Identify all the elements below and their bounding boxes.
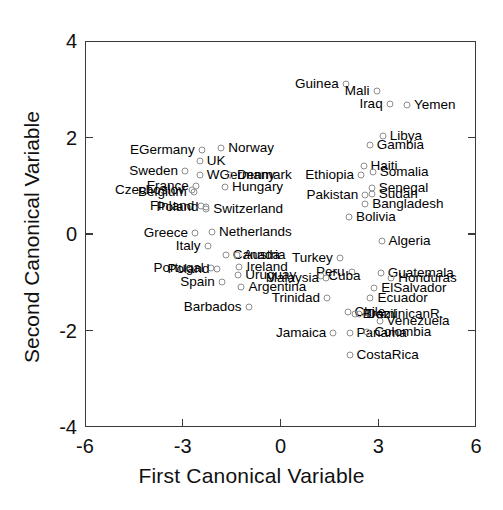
- point-label: Iraq: [359, 97, 382, 111]
- data-point: [356, 311, 363, 318]
- data-point: [386, 100, 393, 107]
- data-point: [203, 205, 210, 212]
- data-point: [336, 255, 343, 262]
- point-label: Sweden: [129, 165, 178, 179]
- x-tick-mark: [280, 419, 281, 427]
- point-label: Italy: [176, 239, 201, 253]
- y-tick-mark: [468, 330, 476, 331]
- y-tick-mark: [85, 233, 93, 234]
- data-point: [204, 242, 211, 249]
- y-tick-label: 2: [39, 128, 77, 148]
- data-point: [222, 183, 229, 190]
- y-axis-label: Second Canonical Variable: [20, 37, 44, 437]
- y-tick-label: -2: [39, 321, 77, 341]
- data-point: [364, 329, 371, 336]
- point-label: Switzerland: [213, 202, 283, 216]
- point-label: Yemen: [414, 98, 456, 112]
- data-point: [324, 295, 331, 302]
- data-point: [218, 145, 225, 152]
- data-point: [403, 101, 410, 108]
- point-label: Hungary: [232, 180, 283, 194]
- x-tick-mark: [182, 419, 183, 427]
- y-tick-label: 4: [39, 31, 77, 51]
- data-point: [360, 163, 367, 170]
- data-point: [346, 351, 353, 358]
- point-label: Cuba: [328, 270, 360, 284]
- point-label: Colombia: [374, 326, 431, 340]
- data-point: [362, 201, 369, 208]
- data-point: [362, 192, 369, 199]
- x-tick-mark: [378, 419, 379, 427]
- data-point: [245, 304, 252, 311]
- point-label: Bolivia: [356, 210, 396, 224]
- data-point: [198, 146, 205, 153]
- point-label: Ecuador: [377, 291, 427, 305]
- point-label: Somalia: [380, 165, 429, 179]
- x-tick-label: -3: [174, 436, 192, 456]
- data-point: [346, 330, 353, 337]
- data-point: [182, 168, 189, 175]
- data-point: [369, 169, 376, 176]
- point-label: Argentina: [248, 280, 306, 294]
- data-point: [192, 230, 199, 237]
- x-tick-label: 0: [275, 436, 286, 456]
- data-point: [373, 88, 380, 95]
- data-point: [236, 263, 243, 270]
- x-tick-label: -6: [76, 436, 94, 456]
- data-point: [378, 237, 385, 244]
- x-tick-label: 3: [373, 436, 384, 456]
- point-label: Netherlands: [219, 225, 292, 239]
- data-point: [196, 172, 203, 179]
- point-label: Guinea: [295, 78, 339, 92]
- data-point: [233, 252, 240, 259]
- data-point: [367, 294, 374, 301]
- data-point: [235, 272, 242, 279]
- data-point: [238, 284, 245, 291]
- point-label: Gambia: [377, 138, 424, 152]
- point-label: CostaRica: [357, 348, 419, 362]
- point-label: Pakistan: [306, 189, 358, 203]
- data-point: [376, 317, 383, 324]
- data-point: [357, 172, 364, 179]
- point-label: UK: [207, 154, 226, 168]
- point-label: Barbados: [184, 301, 242, 315]
- data-point: [226, 172, 233, 179]
- point-label: Ethiopia: [305, 168, 354, 182]
- point-label: EGermany: [130, 143, 195, 157]
- data-point: [209, 229, 216, 236]
- point-label: Poland: [157, 201, 199, 215]
- data-point: [213, 265, 220, 272]
- y-tick-label: -4: [39, 417, 77, 437]
- point-label: Turkey: [292, 251, 333, 265]
- scatter-plot-figure: -6-3036 420-2-4 GuineaMaliIraqYemenLibya…: [0, 0, 503, 510]
- point-label: Spain: [180, 276, 215, 290]
- point-label: Jamaica: [276, 327, 326, 341]
- data-point: [218, 279, 225, 286]
- data-point: [366, 141, 373, 148]
- y-tick-mark: [85, 330, 93, 331]
- point-label: Algeria: [389, 234, 431, 248]
- data-point: [345, 213, 352, 220]
- data-point: [222, 252, 229, 259]
- point-label: Belgium: [138, 185, 187, 199]
- point-label: Poland: [168, 262, 210, 276]
- point-label: Norway: [228, 141, 274, 155]
- x-axis-label: First Canonical Variable: [0, 464, 503, 488]
- data-point: [190, 188, 197, 195]
- x-tick-label: 6: [470, 436, 481, 456]
- data-point: [344, 309, 351, 316]
- data-point: [323, 275, 330, 282]
- y-tick-mark: [468, 233, 476, 234]
- y-tick-label: 0: [39, 224, 77, 244]
- y-tick-mark: [468, 137, 476, 138]
- y-tick-mark: [85, 137, 93, 138]
- data-point: [196, 157, 203, 164]
- data-point: [377, 269, 384, 276]
- data-point: [330, 330, 337, 337]
